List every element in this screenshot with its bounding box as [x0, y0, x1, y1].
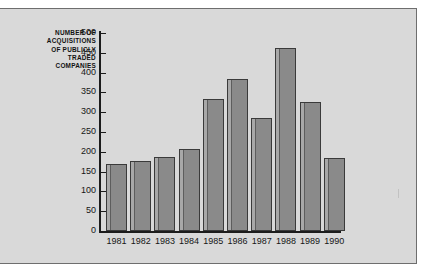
bar-bevel: [155, 158, 159, 230]
bar-bevel: [131, 162, 135, 230]
bar-bevel: [180, 150, 184, 230]
bar-1989: [300, 102, 321, 231]
y-tick-label-50: 50: [70, 206, 96, 215]
y-tick-label-200: 200: [70, 147, 96, 156]
y-axis-title-line-2: ACQUISITIONS: [18, 37, 96, 45]
bar-1982: [130, 161, 151, 231]
bar-bevel: [252, 119, 256, 230]
bar-bevel: [204, 100, 208, 230]
y-tick-label-150: 150: [70, 167, 96, 176]
y-tick-400: [101, 73, 106, 74]
y-tick-250: [101, 132, 106, 133]
stray-mark: [398, 189, 399, 198]
y-tick-label-100: 100: [70, 186, 96, 195]
chart-figure: NUMBER OF ACQUISITIONS OF PUBLICLY TRADE…: [0, 8, 417, 264]
y-tick-300: [101, 112, 106, 113]
y-tick-label-500: 500: [70, 28, 96, 37]
y-tick-label-250: 250: [70, 127, 96, 136]
y-tick-200: [101, 152, 106, 153]
y-tick-label-400: 400: [70, 68, 96, 77]
bar-bevel: [301, 103, 305, 230]
bar-chart-plot: NUMBER OF ACQUISITIONS OF PUBLICLY TRADE…: [0, 9, 417, 264]
bar-bevel: [107, 165, 111, 230]
x-axis-label-1990: 1990: [319, 236, 349, 246]
bar-1981: [106, 164, 127, 231]
y-tick-label-0: 0: [70, 226, 96, 235]
bar-bevel: [276, 49, 280, 230]
y-tick-450: [101, 53, 106, 54]
bar-bevel: [325, 159, 329, 230]
bar-1985: [203, 99, 224, 231]
y-tick-label-450: 450: [70, 48, 96, 57]
y-tick-label-350: 350: [70, 87, 96, 96]
y-tick-label-300: 300: [70, 107, 96, 116]
y-tick-500: [101, 33, 106, 34]
bar-1984: [179, 149, 200, 231]
bar-1987: [251, 118, 272, 231]
y-tick-350: [101, 92, 106, 93]
bar-1983: [154, 157, 175, 231]
bar-1986: [227, 79, 248, 231]
y-tick-0: [101, 231, 106, 232]
x-axis-line: [99, 231, 341, 233]
bar-bevel: [228, 80, 232, 230]
bar-1988: [275, 48, 296, 231]
bar-1990: [324, 158, 345, 231]
